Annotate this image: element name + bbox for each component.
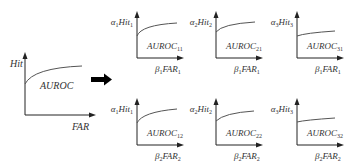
panel-1-2: α2Hit2AUROC21β1FAR1 — [190, 11, 263, 75]
panel-area-label: AUROC31 — [306, 41, 343, 52]
panel-y-label: α2Hit2 — [190, 17, 212, 28]
panel-y-axis-arrowhead — [135, 98, 140, 105]
panel-1-1: α1Hit1AUROC11β1FAR1 — [111, 11, 184, 75]
panel-x-label: β2FAR2 — [314, 151, 341, 162]
panel-y-label: α3Hit3 — [271, 17, 293, 28]
panel-x-axis-arrowhead — [177, 143, 184, 148]
panel-area-label: AUROC12 — [146, 128, 183, 139]
auroc-decomposition-diagram: Hit AUROC FAR α1Hit1AUROC11β1FAR1α2Hit2A… — [0, 0, 363, 166]
panel-y-axis-arrowhead — [214, 11, 219, 18]
panel-area-label: AUROC21 — [225, 41, 262, 52]
panel-y-axis-arrowhead — [135, 11, 140, 18]
panel-y-axis-arrowhead — [295, 11, 300, 18]
panel-y-label: α3Hit3 — [271, 104, 293, 115]
panel-x-axis-arrowhead — [337, 56, 344, 61]
main-x-label: FAR — [71, 121, 89, 132]
panel-roc-curve — [137, 23, 177, 36]
panel-roc-curve — [137, 109, 177, 123]
panel-y-label: α2Hit2 — [190, 104, 212, 115]
main-y-label: Hit — [9, 58, 23, 69]
panel-roc-curve — [297, 31, 335, 36]
panel-roc-curve — [297, 118, 335, 122]
panel-area-label: AUROC11 — [146, 41, 183, 52]
panel-x-label: β1FAR1 — [154, 64, 181, 75]
panel-x-axis-arrowhead — [256, 56, 263, 61]
main-x-axis-arrowhead — [89, 113, 96, 118]
main-area-label: AUROC — [39, 80, 74, 91]
panel-x-label: β1FAR1 — [314, 64, 341, 75]
panel-area-label: AUROC22 — [225, 128, 262, 139]
decomposed-panels: α1Hit1AUROC11β1FAR1α2Hit2AUROC21β1FAR1α3… — [111, 11, 344, 162]
panel-x-label: β2FAR2 — [233, 151, 260, 162]
panel-2-1: α1Hit1AUROC12β2FAR2 — [111, 98, 184, 162]
panel-roc-curve — [216, 111, 254, 121]
panel-x-axis-arrowhead — [256, 143, 263, 148]
panel-y-label: α1Hit1 — [111, 17, 133, 28]
main-roc-plot: Hit AUROC FAR — [9, 52, 96, 132]
panel-x-label: β1FAR1 — [233, 64, 260, 75]
panel-y-axis-arrowhead — [214, 98, 219, 105]
panel-roc-curve — [216, 22, 255, 32]
panel-2-3: α3Hit3AUROC32β2FAR2 — [271, 98, 344, 162]
panel-x-label: β2FAR2 — [154, 151, 181, 162]
panel-y-axis-arrowhead — [295, 98, 300, 105]
main-y-axis-arrowhead — [23, 52, 28, 59]
panel-area-label: AUROC32 — [306, 128, 343, 139]
panel-1-3: α3Hit3AUROC31β1FAR1 — [271, 11, 344, 75]
panel-x-axis-arrowhead — [177, 56, 184, 61]
panel-y-label: α1Hit1 — [111, 104, 133, 115]
panel-x-axis-arrowhead — [337, 143, 344, 148]
right-arrow-icon — [91, 74, 112, 86]
panel-2-2: α2Hit2AUROC22β2FAR2 — [190, 98, 263, 162]
